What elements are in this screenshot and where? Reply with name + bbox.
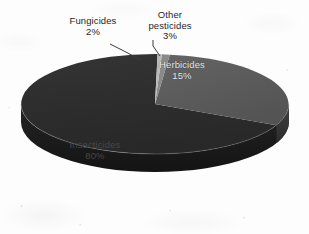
slice-label-fungicides: Fungicides 2%	[62, 16, 124, 37]
slice-label-herbicides: Herbicides 15%	[146, 60, 218, 81]
slice-label-other-pesticides-percent: 3%	[139, 31, 201, 42]
slice-label-herbicides-percent: 15%	[146, 71, 218, 82]
slice-label-other-pesticides: Other pesticides 3%	[139, 10, 201, 42]
leader-line-other-pesticides	[153, 40, 160, 56]
slice-label-insecticides: Insecticides 80%	[56, 140, 134, 161]
slice-label-insecticides-percent: 80%	[56, 151, 134, 162]
pie-chart-figure: Fungicides 2% Other pesticides 3% Herbic…	[0, 0, 309, 234]
slice-label-fungicides-percent: 2%	[62, 27, 124, 38]
